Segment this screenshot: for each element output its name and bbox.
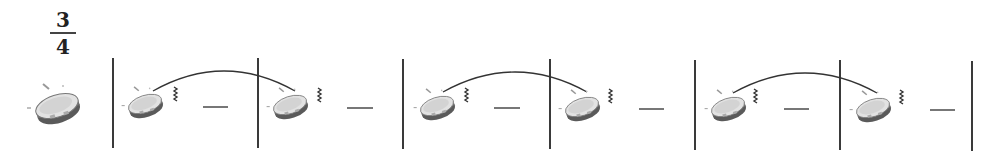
shake-icon: [900, 90, 903, 104]
ties: [153, 71, 877, 93]
tambourine-icon: [705, 90, 749, 125]
shake-icon: [754, 89, 757, 103]
tambourine-icon: [27, 84, 83, 129]
tie-arc: [443, 72, 587, 92]
tambourine-icon: [559, 90, 603, 125]
tambourine-icon: [414, 89, 458, 124]
measure-6: [850, 90, 955, 126]
shake-icon: [465, 88, 468, 102]
tambourine-icon: [122, 87, 166, 122]
shake-icon: [318, 88, 321, 102]
tambourine-icon: [267, 88, 311, 123]
measure-5: [705, 89, 809, 125]
measure-3: [414, 88, 520, 124]
tambourine-icon: [850, 91, 894, 126]
measure-2: [267, 88, 373, 123]
shake-icon: [174, 87, 177, 101]
shake-icon: [609, 89, 612, 103]
measure-4: [559, 89, 664, 125]
rhythm-score: [0, 0, 997, 159]
measure-1: [122, 87, 228, 122]
